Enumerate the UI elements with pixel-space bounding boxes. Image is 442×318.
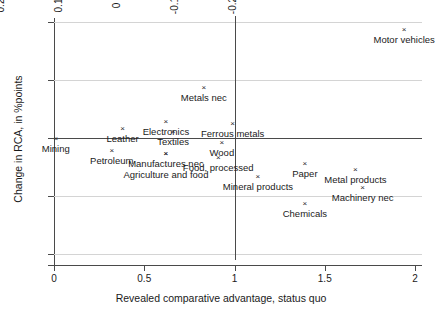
data-point-marker: ×: [254, 172, 262, 181]
x-axis-tick-label: 0.5: [124, 273, 164, 284]
y-axis-title: Change in RCA, in %points: [12, 59, 24, 219]
data-point-marker: ×: [351, 165, 359, 174]
data-point-marker: ×: [108, 146, 116, 155]
data-point-marker: ×: [400, 25, 408, 34]
data-point-marker: ×: [169, 127, 177, 136]
data-point-marker: ×: [214, 153, 222, 162]
data-point-label: Mining: [42, 143, 70, 154]
data-point-marker: ×: [229, 119, 237, 128]
plot-area: ×Motor vehicles×Metals nec×Electronics×L…: [54, 22, 415, 254]
x-axis-tick-label: 1: [215, 273, 255, 284]
x-axis-tick: [144, 265, 145, 271]
x-axis-tick-label: 1.5: [305, 273, 345, 284]
y-axis-tick-label: 0.1: [53, 0, 64, 26]
x-axis-tick: [325, 265, 326, 271]
x-axis-tick-label: 0: [34, 273, 74, 284]
data-point-label: Metal products: [324, 174, 386, 185]
x-axis-tick: [54, 265, 55, 271]
y-axis-tick-label: 0.2: [0, 0, 6, 26]
x-axis-tick: [235, 265, 236, 271]
y-axis-tick-label: -0.2: [227, 0, 238, 26]
y-axis-tick: [48, 196, 54, 197]
data-point-marker: ×: [218, 138, 226, 147]
data-point-label: Electronics: [143, 126, 189, 137]
data-point-label: Mineral products: [223, 181, 293, 192]
x-axis-tick-label: 2: [395, 273, 435, 284]
y-axis-tick-label: 0: [111, 0, 122, 26]
y-axis-tick: [48, 138, 54, 139]
y-axis-tick-label: -0.1: [169, 0, 180, 26]
data-point-label: Paper: [292, 168, 317, 179]
data-point-label: Metals nec: [181, 92, 227, 103]
data-point-label: Machinery nec: [332, 192, 394, 203]
data-point-marker: ×: [301, 159, 309, 168]
data-point-label: Ferrous metals: [201, 128, 264, 139]
data-point-label: Petroleum: [90, 155, 133, 166]
data-point-marker: ×: [200, 83, 208, 92]
data-point-marker: ×: [119, 124, 127, 133]
data-point-label: Textiles: [157, 136, 189, 147]
gridline-horizontal: [50, 254, 422, 255]
y-axis-tick: [48, 254, 54, 255]
data-point-marker: ×: [162, 149, 170, 158]
gridline-horizontal: [50, 80, 422, 81]
data-point-label: Chemicals: [283, 208, 327, 219]
data-point-marker: ×: [162, 117, 170, 126]
data-point-label: Motor vehicles: [374, 34, 435, 45]
data-point-marker: ×: [359, 183, 367, 192]
x-axis-title: Revealed comparative advantage, status q…: [0, 292, 442, 304]
y-axis-tick: [48, 80, 54, 81]
x-axis-tick: [415, 265, 416, 271]
data-point-label: Leather: [106, 133, 138, 144]
data-point-marker: ×: [301, 199, 309, 208]
data-point-label: Food, processed: [183, 162, 254, 173]
scatter-plot-figure: ×Motor vehicles×Metals nec×Electronics×L…: [0, 0, 442, 318]
